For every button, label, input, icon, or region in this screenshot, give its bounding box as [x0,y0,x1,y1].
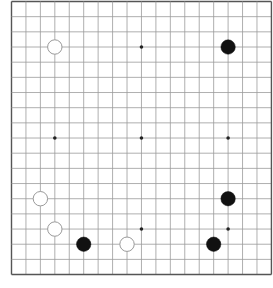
black-stone [221,192,235,206]
star-point-icon [140,136,144,140]
black-stone [206,237,220,251]
white-stone [48,222,62,236]
black-stone [77,237,91,251]
black-stone [221,40,235,54]
go-board-canvas[interactable] [0,0,273,288]
stones-layer [33,40,235,252]
star-point-icon [140,45,144,49]
white-stone [48,40,62,54]
star-point-icon [53,136,57,140]
white-stone [33,192,47,206]
go-board[interactable] [0,0,273,288]
star-point-icon [140,227,144,231]
star-point-icon [226,227,230,231]
star-point-icon [226,136,230,140]
white-stone [120,237,134,251]
